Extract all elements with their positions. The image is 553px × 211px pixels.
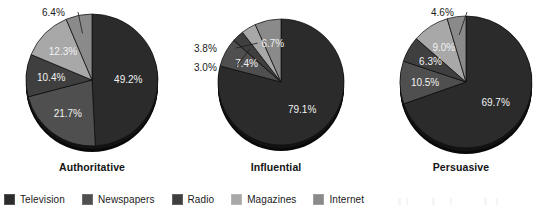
- legend-label-newspapers: Newspapers: [98, 194, 155, 205]
- chart-legend: Television Newspapers Radio Magazines In…: [4, 190, 381, 208]
- legend-item-internet: Internet: [313, 194, 364, 205]
- pie-slice-value-newspapers: 21.7%: [54, 108, 82, 119]
- pie-chart-authoritative: 49.2%21.7%10.4%12.3%6.4% Authoritative: [0, 0, 184, 182]
- legend-swatch-television: [4, 194, 15, 205]
- legend-item-magazines: Magazines: [231, 194, 296, 205]
- scan-artifact: [392, 198, 542, 205]
- legend-swatch-radio: [172, 194, 183, 205]
- pie-svg-influential: 79.1%7.4%3.0%3.8%6.7%: [184, 0, 368, 162]
- chart-title-influential: Influential: [184, 161, 368, 173]
- legend-label-television: Television: [20, 194, 65, 205]
- pie-slice-value-internet: 4.6%: [431, 7, 454, 18]
- pie-slice-value-television: 69.7%: [481, 97, 509, 108]
- pie-slice-value-magazines: 9.0%: [432, 42, 455, 53]
- legend-swatch-magazines: [231, 194, 242, 205]
- pie-slice-value-television: 79.1%: [288, 104, 316, 115]
- pie-slice-value-radio: 6.3%: [419, 56, 442, 67]
- pie-slice-value-internet: 6.4%: [42, 7, 65, 18]
- pie-slice-value-radio: 3.0%: [194, 62, 217, 73]
- legend-item-radio: Radio: [172, 194, 215, 205]
- pie-slice-value-magazines: 3.8%: [194, 43, 217, 54]
- legend-label-magazines: Magazines: [247, 194, 296, 205]
- legend-item-newspapers: Newspapers: [82, 194, 155, 205]
- chart-title-persuasive: Persuasive: [369, 161, 553, 173]
- legend-swatch-internet: [313, 194, 324, 205]
- pie-chart-figure: 49.2%21.7%10.4%12.3%6.4% Authoritative 7…: [0, 0, 553, 211]
- pie-slice-value-television: 49.2%: [114, 74, 142, 85]
- charts-row: 49.2%21.7%10.4%12.3%6.4% Authoritative 7…: [0, 0, 553, 182]
- pie-slice-value-newspapers: 10.5%: [411, 77, 439, 88]
- pie-slice-value-radio: 10.4%: [37, 72, 65, 83]
- chart-title-authoritative: Authoritative: [0, 161, 184, 173]
- pie-slice-value-internet: 6.7%: [261, 38, 284, 49]
- pie-chart-influential: 79.1%7.4%3.0%3.8%6.7% Influential: [184, 0, 368, 182]
- legend-label-radio: Radio: [188, 194, 215, 205]
- pie-chart-persuasive: 69.7%10.5%6.3%9.0%4.6% Persuasive: [369, 0, 553, 182]
- legend-label-internet: Internet: [329, 194, 364, 205]
- pie-svg-authoritative: 49.2%21.7%10.4%12.3%6.4%: [0, 0, 184, 162]
- legend-item-television: Television: [4, 194, 65, 205]
- legend-swatch-newspapers: [82, 194, 93, 205]
- pie-svg-persuasive: 69.7%10.5%6.3%9.0%4.6%: [369, 0, 553, 162]
- pie-slice-value-magazines: 12.3%: [49, 46, 77, 57]
